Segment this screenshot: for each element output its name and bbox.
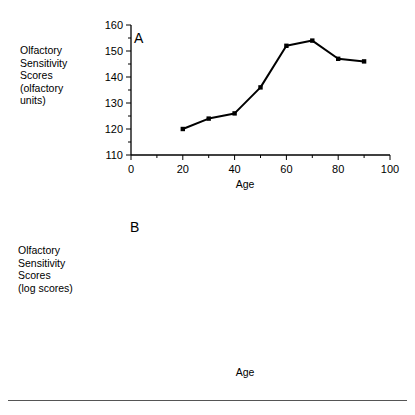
x-tick-label: 0 <box>128 163 134 175</box>
data-point-marker <box>284 44 288 48</box>
y-tick-label: 130 <box>105 97 123 109</box>
data-point-marker <box>207 116 211 120</box>
y-tick-label: 110 <box>105 149 123 161</box>
y-tick-label: 160 <box>105 19 123 31</box>
chart-panel-b: Olfactory Sensitivity Scores (log scores… <box>0 196 415 386</box>
figure-olfactory-sensitivity: Olfactory Sensitivity Scores (olfactory … <box>0 0 415 415</box>
panel-b-plot-area: 11.21.41.61.822.2020406080100 <box>0 196 415 386</box>
panel-b-x-axis-title: Age <box>215 366 275 378</box>
y-tick-label: 120 <box>105 123 123 135</box>
panel-a-plot-area: 110120130140150160020406080100 <box>0 0 415 200</box>
x-tick-label: 20 <box>177 163 189 175</box>
x-tick-label: 60 <box>280 163 292 175</box>
y-tick-label: 150 <box>105 45 123 57</box>
x-tick-label: 40 <box>228 163 240 175</box>
y-tick-label: 140 <box>105 71 123 83</box>
x-tick-label: 80 <box>332 163 344 175</box>
data-point-marker <box>232 111 236 115</box>
data-point-marker <box>181 127 185 131</box>
data-point-marker <box>336 57 340 61</box>
data-point-marker <box>362 59 366 63</box>
chart-panel-a: Olfactory Sensitivity Scores (olfactory … <box>0 0 415 200</box>
footer-divider-rule <box>8 400 407 401</box>
x-tick-label: 100 <box>381 163 399 175</box>
data-point-marker <box>258 85 262 89</box>
data-series-line <box>183 41 364 129</box>
data-point-marker <box>310 38 314 42</box>
panel-a-x-axis-title: Age <box>215 178 275 190</box>
